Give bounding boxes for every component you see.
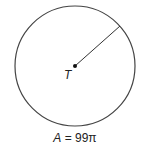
circle-diagram: T A = 99π [0, 0, 160, 147]
center-point [73, 64, 77, 68]
radius-segment [75, 26, 120, 66]
center-label: T [64, 68, 73, 82]
area-label: A = 99π [52, 131, 96, 145]
